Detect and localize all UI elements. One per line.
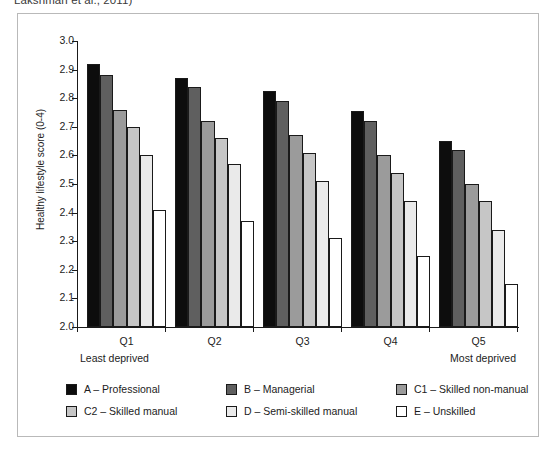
legend-label: C2 – Skilled manual — [84, 405, 177, 417]
legend-swatch-icon — [226, 384, 237, 395]
bar-Q5-D — [492, 230, 505, 327]
bar-Q4-C2 — [391, 173, 404, 327]
legend-swatch-icon — [396, 384, 407, 395]
y-axis-tick-label: 2.0 — [59, 320, 74, 332]
bar-Q3-B — [276, 101, 289, 327]
bar-Q1-E — [153, 210, 166, 327]
bar-Q3-D — [316, 181, 329, 327]
legend-label: D – Semi-skilled manual — [244, 405, 357, 417]
bar-Q3-E — [329, 238, 342, 327]
bar-Q4-B — [364, 121, 377, 327]
bar-Q1-D — [140, 155, 153, 327]
y-axis-line — [77, 41, 78, 328]
y-axis-tick-mark — [72, 155, 77, 156]
bar-Q5-C2 — [479, 201, 492, 327]
bar-Q4-C1 — [377, 155, 390, 327]
bar-Q2-E — [241, 221, 254, 327]
legend-label: E – Unskilled — [414, 405, 475, 417]
bar-Q5-A — [439, 141, 452, 327]
x-axis-least-deprived-label: Least deprived — [80, 352, 149, 364]
legend-entry: D – Semi-skilled manual — [226, 405, 357, 417]
bar-group — [175, 41, 254, 327]
bar-group — [439, 41, 518, 327]
x-axis-line — [77, 327, 519, 328]
y-axis-tick-mark — [72, 98, 77, 99]
legend-swatch-icon — [66, 384, 77, 395]
bar-group — [263, 41, 342, 327]
bar-Q2-B — [188, 87, 201, 327]
bar-chart-plot-area: Healthy lifestyle score (0-4) 3.02.92.82… — [18, 14, 540, 438]
bar-Q3-C2 — [303, 153, 316, 327]
y-axis-tick-mark — [72, 298, 77, 299]
chart-legend: A – ProfessionalB – ManagerialC1 – Skill… — [66, 378, 516, 422]
bar-Q1-B — [100, 75, 113, 327]
x-axis-tick-mark — [165, 327, 166, 332]
bar-Q1-C1 — [113, 110, 126, 327]
x-axis-most-deprived-label: Most deprived — [450, 352, 516, 364]
legend-label: C1 – Skilled non-manual — [414, 383, 528, 395]
figure-frame: Healthy lifestyle score (0-4) 3.02.92.82… — [17, 13, 539, 437]
bar-Q4-D — [404, 201, 417, 327]
x-axis-tick-mark — [341, 327, 342, 332]
y-axis-tick-label: 2.9 — [59, 63, 74, 75]
legend-entry: A – Professional — [66, 383, 160, 395]
y-axis-tick-label: 2.6 — [59, 148, 74, 160]
y-axis-tick-label: 2.4 — [59, 206, 74, 218]
bar-Q2-D — [228, 164, 241, 327]
x-axis-group-label-Q2: Q2 — [195, 335, 235, 347]
x-axis-tick-mark — [429, 327, 430, 332]
y-axis-tick-label: 2.1 — [59, 291, 74, 303]
y-axis-tick-label: 3.0 — [59, 34, 74, 46]
legend-row: A – ProfessionalB – ManagerialC1 – Skill… — [66, 378, 516, 400]
y-axis-tick-mark — [72, 127, 77, 128]
x-axis-group-label-Q5: Q5 — [459, 335, 499, 347]
legend-swatch-icon — [226, 406, 237, 417]
y-axis-tick-label: 2.7 — [59, 120, 74, 132]
legend-label: A – Professional — [84, 383, 160, 395]
y-axis-tick-mark — [72, 41, 77, 42]
bar-Q1-C2 — [127, 127, 140, 327]
bar-Q2-C2 — [215, 138, 228, 327]
legend-entry: E – Unskilled — [396, 405, 475, 417]
legend-swatch-icon — [66, 406, 77, 417]
bar-Q4-A — [351, 111, 364, 327]
bar-Q5-E — [505, 284, 518, 327]
bar-group — [351, 41, 430, 327]
bar-Q5-B — [452, 150, 465, 327]
legend-entry: C2 – Skilled manual — [66, 405, 177, 417]
y-axis-tick-mark — [72, 270, 77, 271]
bar-Q1-A — [87, 64, 100, 327]
x-axis-tick-mark — [517, 327, 518, 332]
bar-Q5-C1 — [465, 184, 478, 327]
y-axis-tick-label: 2.8 — [59, 91, 74, 103]
y-axis-tick-mark — [72, 241, 77, 242]
legend-entry: B – Managerial — [226, 383, 315, 395]
y-axis-tick-label: 2.3 — [59, 234, 74, 246]
legend-row: C2 – Skilled manualD – Semi-skilled manu… — [66, 400, 516, 422]
y-axis-tick-mark — [72, 184, 77, 185]
legend-swatch-icon — [396, 406, 407, 417]
y-axis-tick-label: 2.5 — [59, 177, 74, 189]
bar-Q4-E — [417, 256, 430, 328]
y-axis-tick-label: 2.2 — [59, 263, 74, 275]
x-axis-group-label-Q1: Q1 — [107, 335, 147, 347]
bar-group — [87, 41, 166, 327]
bar-Q3-C1 — [289, 135, 302, 327]
y-axis-title: Healthy lifestyle score (0-4) — [35, 90, 46, 250]
x-axis-tick-mark — [77, 327, 78, 332]
legend-label: B – Managerial — [244, 383, 315, 395]
bar-Q3-A — [263, 91, 276, 327]
figure-caption-clipped: Lakshman et al., 2011) — [14, 0, 132, 8]
bar-Q2-C1 — [201, 121, 214, 327]
x-axis-tick-mark — [253, 327, 254, 332]
legend-entry: C1 – Skilled non-manual — [396, 383, 528, 395]
y-axis-tick-mark — [72, 213, 77, 214]
x-axis-group-label-Q4: Q4 — [371, 335, 411, 347]
bar-Q2-A — [175, 78, 188, 327]
y-axis-tick-mark — [72, 70, 77, 71]
x-axis-group-label-Q3: Q3 — [283, 335, 323, 347]
